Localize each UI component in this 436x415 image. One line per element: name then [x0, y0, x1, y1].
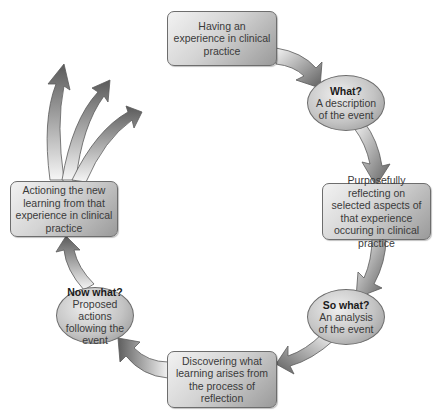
node-actioning-new-learning: Actioning the new learning from that exp… [10, 181, 118, 237]
reflective-cycle-diagram: Having an experience in clinical practic… [0, 0, 436, 415]
node-so-what: So what? An analysis of the event [307, 289, 385, 345]
node-discovering-learning: Discovering what learning arises from th… [167, 351, 277, 408]
node-what: What? A description of the event [307, 75, 385, 131]
node-text: An analysis of the event [317, 311, 375, 335]
node-text: Actioning the new learning from that exp… [15, 184, 113, 234]
node-text: Purposefully reflecting on selected aspe… [327, 174, 426, 249]
node-question: So what? [323, 299, 370, 311]
node-text: Proposed actions following the event [59, 298, 131, 346]
arrow-now-what-to-actioning [56, 236, 94, 290]
node-text: Having an experience in clinical practic… [172, 20, 272, 58]
node-having-an-experience: Having an experience in clinical practic… [167, 11, 277, 66]
node-text: A description of the event [315, 97, 377, 121]
arrow-experience-to-what [276, 48, 322, 88]
node-question: Now what? [67, 286, 122, 298]
node-text: Discovering what learning arises from th… [172, 355, 272, 405]
node-question: What? [330, 85, 362, 97]
arrow-branches-outward [47, 64, 142, 182]
node-now-what: Now what? Proposed actions following the… [56, 287, 134, 344]
node-purposefully-reflecting: Purposefully reflecting on selected aspe… [322, 183, 431, 240]
